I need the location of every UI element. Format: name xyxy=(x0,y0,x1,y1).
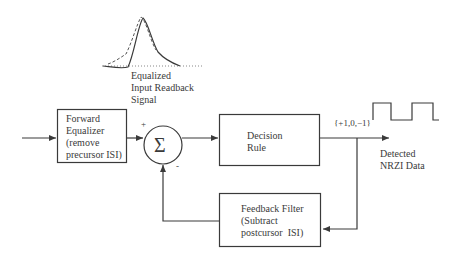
plus-sign: + xyxy=(141,118,146,130)
detected-line-2: NRZI Data xyxy=(380,160,425,172)
signal-label: Equalized Input Readback Signal xyxy=(131,70,194,106)
feedback-filter-line-2: (Subtract xyxy=(241,215,303,227)
feedback-input-path xyxy=(323,138,357,229)
feedback-filter-line-1: Feedback Filter xyxy=(241,203,303,215)
forward-equalizer-label: Forward Equalizer (remove precursor ISI) xyxy=(66,113,122,161)
sigma-symbol: Σ xyxy=(154,134,166,156)
minus-sign: - xyxy=(176,160,179,172)
decision-rule-line-1: Decision xyxy=(247,130,283,142)
decision-rule-label: Decision Rule xyxy=(247,130,283,154)
feedback-filter-label: Feedback Filter (Subtract postcursor ISI… xyxy=(241,203,303,239)
signal-label-line-3: Signal xyxy=(131,94,194,106)
pulse-solid-curve xyxy=(103,18,180,68)
forward-equalizer-line-1: Forward xyxy=(66,113,122,125)
forward-equalizer-line-3: (remove xyxy=(66,137,122,149)
detected-nrzi-label: Detected NRZI Data xyxy=(380,148,425,172)
nrzi-square-wave xyxy=(373,103,439,120)
detected-line-1: Detected xyxy=(380,148,425,160)
signal-label-line-2: Input Readback xyxy=(131,82,194,94)
feedback-filter-line-3: postcursor ISI) xyxy=(241,227,303,239)
forward-equalizer-line-2: Equalizer xyxy=(66,125,122,137)
feedback-to-summer-path xyxy=(163,165,219,221)
equalized-pulse-waveform xyxy=(102,17,202,68)
forward-equalizer-line-4: precursor ISI) xyxy=(66,149,122,161)
output-levels-label: {+1,0,−1} xyxy=(334,117,371,129)
dfe-block-diagram: Equalized Input Readback Signal Forward … xyxy=(0,0,460,261)
decision-rule-line-2: Rule xyxy=(247,142,283,154)
signal-label-line-1: Equalized xyxy=(131,70,194,82)
